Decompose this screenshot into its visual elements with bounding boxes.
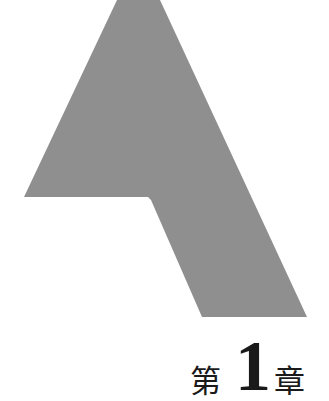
chapter-prefix: 第 xyxy=(190,364,221,398)
chapter-suffix: 章 xyxy=(274,364,305,398)
chapter-heading: 第 1 章 xyxy=(188,336,318,400)
chapter-emblem-shape xyxy=(0,0,329,330)
chapter-number: 1 xyxy=(235,330,271,401)
